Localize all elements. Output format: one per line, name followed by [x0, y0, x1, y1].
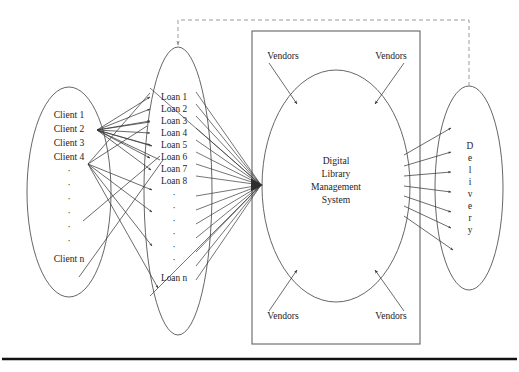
figure-page: Client 1 Client 2 Client 3 Client 4 · · … [0, 0, 519, 372]
delivery-letter-7: r [468, 213, 472, 223]
loan-ellipsis-dot: · [172, 254, 175, 265]
core-to-delivery-connectors [404, 128, 453, 250]
loan-label-4: Loan 4 [161, 128, 187, 138]
delivery-group-ellipse [435, 86, 503, 290]
client-ellipsis-dot: · [67, 179, 70, 190]
vendor-label-bottom-left: Vendors [267, 310, 299, 321]
core-line-4: System [322, 194, 351, 205]
loan-label-2: Loan 2 [161, 104, 187, 114]
loan-ellipsis-dot: · [172, 202, 175, 213]
loan-ellipsis-dot: · [172, 228, 175, 239]
delivery-letter-2: e [468, 153, 472, 163]
delivery-letter-4: i [469, 177, 472, 187]
client-label-4: Client 4 [54, 151, 85, 162]
vendor-label-top-right: Vendors [375, 50, 407, 61]
client-labels: Client 1 Client 2 Client 3 Client 4 · · … [54, 109, 85, 264]
client-ellipsis-dot: · [67, 235, 70, 246]
loan-ellipsis-dot: · [172, 241, 175, 252]
feedback-loop [178, 20, 469, 86]
core-system-label: Digital Library Management System [311, 155, 361, 205]
loan-label-7: Loan 7 [161, 164, 187, 174]
client-label-3: Client 3 [54, 137, 85, 148]
loan-labels: Loan 1 Loan 2 Loan 3 Loan 4 Loan 5 Loan … [161, 92, 187, 283]
client-ellipsis-dot: · [67, 193, 70, 204]
loan-label-6: Loan 6 [161, 152, 187, 162]
client-label-n: Client n [54, 253, 85, 264]
loan-ellipsis-dot: · [172, 215, 175, 226]
delivery-label: D e l i v e r y [467, 141, 474, 235]
vendor-label-top-left: Vendors [267, 50, 299, 61]
delivery-letter-6: e [468, 201, 472, 211]
client-label-2: Client 2 [54, 123, 85, 134]
loan-label-1: Loan 1 [161, 92, 187, 102]
vendor-label-bottom-right: Vendors [375, 310, 407, 321]
core-line-2: Library [322, 168, 351, 179]
delivery-letter-1: D [467, 141, 474, 151]
delivery-letter-8: y [468, 225, 473, 235]
client-ellipsis-dot: · [67, 207, 70, 218]
core-line-1: Digital [323, 155, 350, 166]
client-ellipsis-dot: · [67, 221, 70, 232]
client-to-loan-connectors [79, 93, 163, 288]
delivery-letter-5: v [468, 189, 473, 199]
core-line-3: Management [311, 181, 361, 192]
delivery-letter-3: l [469, 165, 472, 175]
loan-label-n: Loan n [161, 273, 187, 283]
client-ellipsis-dot: · [67, 165, 70, 176]
loan-label-3: Loan 3 [161, 116, 187, 126]
loan-label-8: Loan 8 [161, 176, 187, 186]
client-label-1: Client 1 [54, 109, 85, 120]
loan-ellipsis-dot: · [172, 189, 175, 200]
loan-label-5: Loan 5 [161, 140, 187, 150]
diagram-canvas: Client 1 Client 2 Client 3 Client 4 · · … [0, 0, 519, 372]
